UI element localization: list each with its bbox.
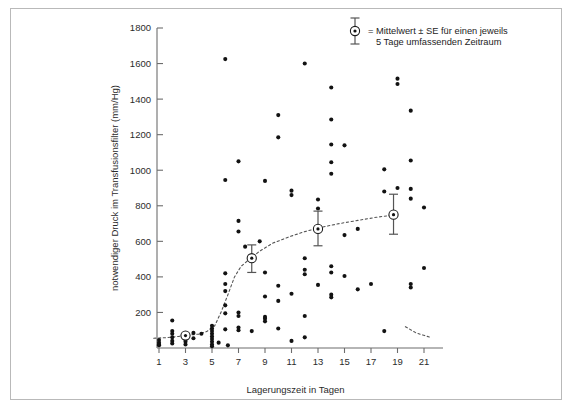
data-point	[223, 282, 227, 286]
mean-marker-dot	[392, 213, 395, 216]
legend-mean-marker-dot	[353, 29, 356, 32]
data-point	[329, 264, 333, 268]
data-point	[395, 186, 399, 190]
x-axis-tick-label: 1	[156, 356, 161, 367]
data-point	[395, 77, 399, 81]
x-axis-title: Lagerungszeit in Tagen	[246, 384, 344, 395]
mean-markers-group	[181, 194, 398, 340]
data-point	[303, 268, 307, 272]
data-point	[289, 339, 293, 343]
data-point	[191, 336, 195, 340]
data-point	[303, 272, 307, 276]
data-point	[223, 327, 227, 331]
mean-marker-dot	[316, 227, 319, 230]
y-axis-tick-label: 1000	[130, 165, 151, 176]
x-axis-tick-label: 13	[313, 356, 324, 367]
data-point	[263, 270, 267, 274]
data-point	[199, 332, 203, 336]
data-point	[422, 266, 426, 270]
data-point	[289, 193, 293, 197]
data-point	[303, 256, 307, 260]
x-axis-tick-label: 19	[392, 356, 403, 367]
data-point	[236, 159, 240, 163]
data-point	[210, 344, 214, 348]
mean-marker-dot	[184, 334, 187, 337]
data-point	[356, 287, 360, 291]
legend-line-1: = Mittelwert ± SE für einen jeweils	[368, 26, 508, 36]
chart-figure: 2004006008001000120014001600180013579111…	[0, 0, 574, 412]
scatter-plot: 2004006008001000120014001600180013579111…	[0, 0, 574, 412]
data-point	[422, 206, 426, 210]
data-point	[157, 343, 161, 347]
y-axis-tick-label: 800	[135, 200, 151, 211]
data-point	[276, 284, 280, 288]
data-point	[382, 167, 386, 171]
data-point	[263, 179, 267, 183]
data-point	[236, 219, 240, 223]
data-point	[236, 230, 240, 234]
data-point	[382, 329, 386, 333]
data-point	[303, 62, 307, 66]
data-point	[276, 326, 280, 330]
x-axis-tick-label: 7	[236, 356, 241, 367]
data-point	[170, 335, 174, 339]
data-point	[329, 270, 333, 274]
data-point	[236, 314, 240, 318]
data-point	[217, 341, 221, 345]
data-point	[316, 198, 320, 202]
x-axis-tick-label: 21	[419, 356, 430, 367]
data-point	[329, 142, 333, 146]
data-point	[223, 271, 227, 275]
data-point	[226, 343, 230, 347]
data-point	[369, 282, 373, 286]
data-point	[409, 282, 413, 286]
data-point	[263, 294, 267, 298]
data-points-group	[157, 57, 426, 348]
data-point	[157, 338, 161, 342]
data-point	[329, 172, 333, 176]
data-point	[316, 206, 320, 210]
x-axis-tick-label: 3	[183, 356, 188, 367]
data-point	[236, 310, 240, 314]
mean-marker-dot	[250, 257, 253, 260]
data-point	[382, 190, 386, 194]
data-point	[329, 295, 333, 299]
data-point	[243, 245, 247, 249]
data-point	[170, 342, 174, 346]
x-axis-tick-label: 5	[209, 356, 214, 367]
x-axis-tick-label: 17	[366, 356, 377, 367]
data-point	[183, 342, 187, 346]
data-point	[223, 303, 227, 307]
data-point	[223, 311, 227, 315]
data-point	[250, 329, 254, 333]
trend-curve-tail	[405, 327, 429, 337]
data-point	[276, 135, 280, 139]
y-axis-tick-label: 600	[135, 236, 151, 247]
data-point	[409, 109, 413, 113]
x-axis-tick-label: 11	[287, 356, 297, 367]
data-point	[258, 239, 262, 243]
data-point	[342, 143, 346, 147]
data-point	[276, 113, 280, 117]
legend-line-2: 5 Tage umfassenden Zeitraum	[376, 37, 502, 47]
y-axis-title: notwendiger Druck im Transfusionsfilter …	[109, 85, 120, 291]
y-axis-tick-label: 1400	[130, 94, 151, 105]
data-point	[329, 86, 333, 90]
data-point	[303, 314, 307, 318]
data-point	[223, 289, 227, 293]
data-point	[170, 332, 174, 336]
x-axis-tick-label: 15	[339, 356, 350, 367]
y-axis-tick-label: 1800	[130, 22, 151, 33]
data-point	[276, 299, 280, 303]
data-point	[342, 233, 346, 237]
data-point	[395, 82, 399, 86]
data-point	[191, 331, 195, 335]
data-point	[223, 57, 227, 61]
data-point	[356, 227, 360, 231]
x-axis-tick-label: 9	[262, 356, 267, 367]
data-point	[409, 158, 413, 162]
legend-group: = Mittelwert ± SE für einen jeweils5 Tag…	[350, 18, 508, 47]
data-point	[342, 274, 346, 278]
data-point	[170, 318, 174, 322]
y-axis-tick-label: 1600	[130, 58, 151, 69]
